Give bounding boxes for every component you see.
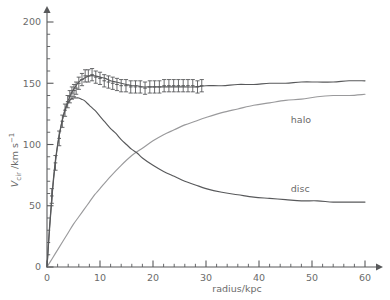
curve-halo <box>47 94 365 267</box>
y-axis-title-text: Vcir /km s−1 <box>8 133 23 187</box>
y-tick-label: 150 <box>23 78 41 89</box>
y-tick-label: 0 <box>35 261 41 272</box>
x-tick-label: 30 <box>200 272 212 283</box>
x-tick-label: 10 <box>94 272 106 283</box>
curve-disc <box>47 98 365 267</box>
x-axis-title: radius/kpc <box>212 283 261 294</box>
annotation-halo: halo <box>291 114 311 125</box>
y-tick-label: 50 <box>29 200 41 211</box>
x-axis-arrow <box>376 263 383 270</box>
annotation-disc: disc <box>291 183 310 194</box>
rotation-curve-figure: 0102030405060050100150200halodiscradius/… <box>0 0 390 300</box>
y-tick-label: 100 <box>23 139 41 150</box>
x-tick-label: 20 <box>147 272 159 283</box>
y-axis-arrow <box>43 6 50 13</box>
y-axis-title: Vcir /km s−1 <box>8 133 23 187</box>
y-tick-label: 200 <box>23 16 41 27</box>
observed-data-group <box>50 69 204 204</box>
plot-area: 0102030405060050100150200halodiscradius/… <box>0 0 390 300</box>
x-tick-label: 60 <box>359 272 371 283</box>
curve-total <box>47 76 365 267</box>
x-tick-label: 40 <box>253 272 265 283</box>
x-tick-label: 50 <box>306 272 318 283</box>
x-tick-label: 0 <box>44 272 50 283</box>
